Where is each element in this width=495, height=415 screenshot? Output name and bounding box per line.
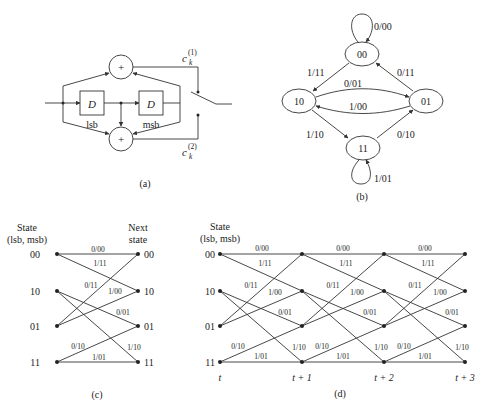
svg-text:1/10: 1/10 <box>127 343 141 352</box>
msb-to-top-adder <box>133 73 180 103</box>
svg-text:1/11: 1/11 <box>258 259 271 268</box>
svg-text:0/00: 0/00 <box>91 245 105 254</box>
svg-text:0/01: 0/01 <box>363 308 377 317</box>
label-10-01: 0/01 <box>344 78 362 89</box>
edge-11-11 <box>352 160 371 184</box>
svg-text:1/01: 1/01 <box>418 352 432 361</box>
label-01-00: 0/11 <box>397 67 414 78</box>
label-11-11: 1/01 <box>374 173 392 184</box>
svg-text:00: 00 <box>144 249 154 260</box>
state-header: State <box>210 221 231 232</box>
switch-contact-2 <box>197 114 200 117</box>
svg-text:0/01: 0/01 <box>116 308 130 317</box>
edge-10-11 <box>57 291 138 362</box>
svg-text:00: 00 <box>30 249 40 260</box>
label-01-10: 1/00 <box>349 101 367 112</box>
svg-text:1/10: 1/10 <box>292 343 306 352</box>
adder-bottom-symbol: + <box>118 133 124 145</box>
caption-a: (a) <box>139 178 150 190</box>
edge-10-01 <box>316 89 409 97</box>
svg-text:11: 11 <box>144 357 154 368</box>
svg-text:0/01: 0/01 <box>278 308 292 317</box>
convolutional-code-figure: D lsb D msb + + c k (1) <box>0 0 495 415</box>
svg-text:(1): (1) <box>188 48 197 57</box>
svg-text:10: 10 <box>205 286 215 297</box>
svg-text:0/10: 0/10 <box>315 342 329 351</box>
svg-text:01: 01 <box>30 321 40 332</box>
delay-msb-label: D <box>146 98 155 110</box>
svg-text:0/11: 0/11 <box>84 281 97 290</box>
time-label-t2: t + 2 <box>374 372 394 383</box>
label-11-01: 0/10 <box>397 129 415 140</box>
svg-text:1/01: 1/01 <box>92 353 106 362</box>
caption-b: (b) <box>356 191 368 203</box>
label-00-00: 0/00 <box>374 21 392 32</box>
svg-text:0/11: 0/11 <box>408 281 421 290</box>
svg-text:1/01: 1/01 <box>254 352 268 361</box>
svg-text:00: 00 <box>205 249 215 260</box>
state-header: State <box>17 222 38 233</box>
svg-text:1/10: 1/10 <box>455 343 469 352</box>
svg-text:1/11: 1/11 <box>421 259 434 268</box>
svg-text:0/10: 0/10 <box>71 342 85 351</box>
svg-text:0/00: 0/00 <box>336 244 350 253</box>
svg-text:01: 01 <box>205 321 215 332</box>
state-header-sub: (lsb, msb) <box>7 234 47 246</box>
output-label-2: c k (2) <box>182 142 197 161</box>
svg-text:0/00: 0/00 <box>255 244 269 253</box>
svg-text:00: 00 <box>357 49 367 60</box>
svg-text:10: 10 <box>30 286 40 297</box>
delay-lsb-label: D <box>87 98 96 110</box>
time-label-t: t <box>219 372 222 383</box>
input-to-top-adder <box>63 73 109 103</box>
svg-text:11: 11 <box>30 357 40 368</box>
svg-text:k: k <box>189 58 193 67</box>
adder-top-symbol: + <box>118 61 124 73</box>
svg-text:10: 10 <box>144 286 154 297</box>
svg-text:0/11: 0/11 <box>244 281 257 290</box>
svg-text:0/10: 0/10 <box>397 342 411 351</box>
edge-00-00 <box>352 14 373 42</box>
svg-text:1/11: 1/11 <box>93 259 106 268</box>
next-state-header: Next <box>128 222 148 233</box>
switch-contact-1 <box>197 91 200 94</box>
svg-text:01: 01 <box>144 321 154 332</box>
svg-text:c: c <box>182 146 187 158</box>
svg-text:0/01: 0/01 <box>445 308 459 317</box>
svg-text:1/11: 1/11 <box>339 259 352 268</box>
svg-text:1/10: 1/10 <box>374 343 388 352</box>
trellis-labels-stage-2: 0/00 1/11 0/11 1/00 0/01 0/10 1/10 1/01 <box>315 244 388 361</box>
svg-text:c: c <box>182 52 187 64</box>
time-label-t3: t + 3 <box>455 372 475 383</box>
output-1-line <box>133 67 198 92</box>
svg-text:11: 11 <box>205 357 215 368</box>
time-label-t1: t + 1 <box>292 372 312 383</box>
trellis-section: State (lsb, msb) Next state 00 10 01 11 … <box>7 222 154 401</box>
svg-text:10: 10 <box>294 96 304 107</box>
svg-text:1/00: 1/00 <box>108 287 122 296</box>
svg-text:11: 11 <box>358 143 368 154</box>
svg-text:1/00: 1/00 <box>268 288 282 297</box>
trellis-labels-stage-1: 0/00 1/11 0/11 1/00 0/01 0/10 1/10 1/01 <box>231 244 306 361</box>
svg-text:k: k <box>189 152 193 161</box>
caption-c: (c) <box>91 389 102 401</box>
trellis-labels-stage-3: 0/00 1/11 0/11 1/00 0/01 0/10 1/10 1/01 <box>397 244 469 361</box>
commutator-switch <box>191 92 216 104</box>
svg-text:1/00: 1/00 <box>433 288 447 297</box>
state-header-sub: (lsb, msb) <box>200 233 240 245</box>
svg-text:1/00: 1/00 <box>350 288 364 297</box>
caption-d: (d) <box>334 388 346 400</box>
trellis-diagram: State (lsb, msb) 00 10 01 11 <box>200 221 475 400</box>
svg-text:0/00: 0/00 <box>418 244 432 253</box>
output-label-1: c k (1) <box>182 48 197 67</box>
svg-text:0/10: 0/10 <box>231 342 245 351</box>
svg-text:0/11: 0/11 <box>326 281 339 290</box>
next-state-header-sub: state <box>129 234 148 245</box>
state-diagram: 00 10 01 11 0/00 1/11 0/01 1/00 0/11 1/1… <box>282 14 443 203</box>
encoder-circuit: D lsb D msb + + c k (1) <box>45 48 232 190</box>
svg-text:01: 01 <box>421 96 431 107</box>
svg-text:(2): (2) <box>188 142 197 151</box>
label-00-10: 1/11 <box>307 67 324 78</box>
svg-text:1/01: 1/01 <box>336 352 350 361</box>
label-10-11: 1/10 <box>306 129 324 140</box>
